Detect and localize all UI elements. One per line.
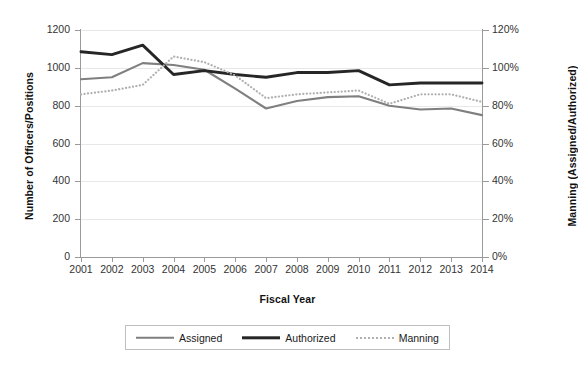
series-line-authorized <box>81 45 482 85</box>
legend-dotted-icon-manning <box>356 333 394 343</box>
legend-item-assigned[interactable]: Assigned <box>136 332 222 344</box>
legend-label-authorized: Authorized <box>285 332 335 344</box>
legend-line-icon-assigned <box>136 333 174 343</box>
chart-legend: Assigned Authorized Manning <box>125 325 450 350</box>
legend-line-icon-authorized <box>242 333 280 343</box>
legend-item-manning[interactable]: Manning <box>356 332 439 344</box>
legend-item-authorized[interactable]: Authorized <box>242 332 335 344</box>
legend-label-manning: Manning <box>399 332 439 344</box>
legend-label-assigned: Assigned <box>179 332 222 344</box>
series-line-assigned <box>81 63 482 115</box>
